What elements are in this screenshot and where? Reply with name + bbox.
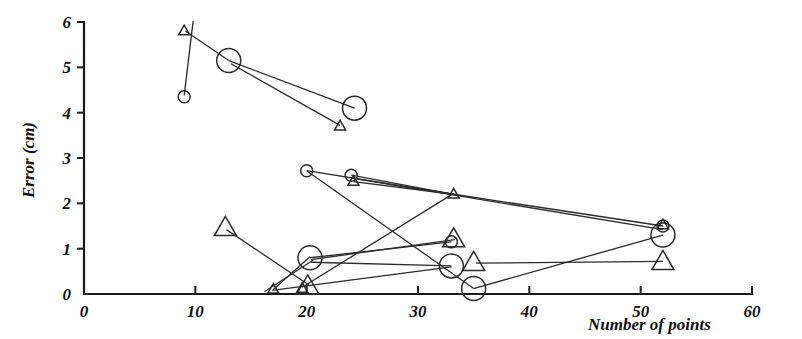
x-tick-label-40: 40	[520, 302, 539, 321]
y-tick-label-3: 3	[62, 149, 72, 168]
marker-large-triangle-4	[652, 250, 674, 269]
x-tick-label-0: 0	[80, 302, 89, 321]
chart-figure: 0123456 0102030405060 Number of points E…	[0, 0, 802, 339]
plot-canvas: 0123456 0102030405060 Number of points E…	[0, 0, 802, 339]
y-tick-label-0: 0	[63, 285, 72, 304]
data-point-markers	[178, 25, 675, 300]
segment-smalltriangle17-to-circle20	[273, 257, 310, 290]
x-tick-label-10: 10	[187, 302, 205, 321]
y-tick-label-2: 2	[62, 194, 72, 213]
y-tick-label-5: 5	[63, 58, 72, 77]
segment-bigtriangle35-to-cluster52	[476, 261, 663, 263]
y-axis-title: Error (cm)	[19, 122, 38, 199]
x-axis-title: Number of points	[587, 315, 711, 334]
segment-bigtriangle13-to-cluster20	[227, 230, 309, 285]
segment-circle13-to-triangle23	[231, 64, 340, 126]
x-tick-label-30: 30	[409, 302, 428, 321]
y-axis-tick-labels: 0123456	[62, 13, 72, 304]
series-connector-lines	[184, 21, 663, 292]
segment-triangle9-to-circle13	[185, 31, 228, 60]
segment-circle20-to-circle33	[311, 262, 451, 266]
marker-large-triangle-3	[463, 251, 485, 270]
segment-circle20-to-bigtriangle33	[311, 240, 455, 260]
segment-triangle33-to-cluster52	[454, 194, 663, 226]
y-tick-label-6: 6	[63, 13, 72, 32]
x-tick-label-60: 60	[744, 302, 762, 321]
marker-small-triangle-0	[179, 25, 190, 35]
y-tick-label-1: 1	[63, 240, 72, 259]
y-tick-label-4: 4	[62, 104, 72, 123]
x-tick-label-20: 20	[297, 302, 316, 321]
segment-cluster20-to-triangle33	[302, 193, 453, 287]
segment-smallcircle24-to-triangle33	[351, 175, 453, 194]
marker-large-triangle-0	[214, 216, 236, 235]
segment-smallcircle24-to-cluster52	[353, 178, 663, 229]
segment-smallcircle20-down-to-bottom	[307, 171, 474, 289]
axes-group	[84, 22, 752, 294]
segment-circle13-to-circle24	[229, 61, 355, 109]
